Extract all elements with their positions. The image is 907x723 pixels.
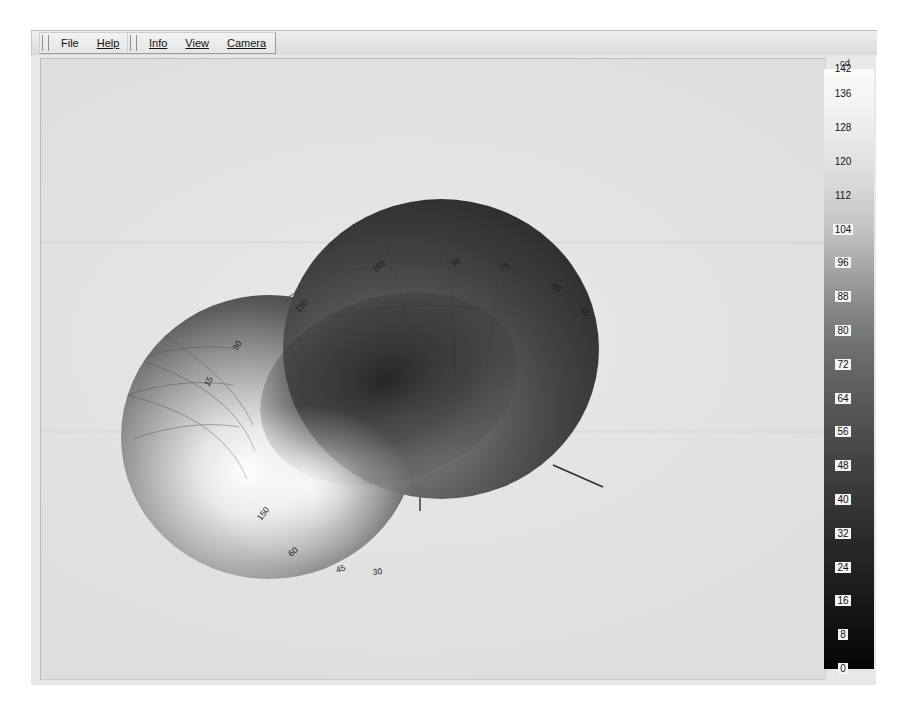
colorbar-tick-0: 0 — [818, 663, 868, 674]
colorbar-tick-value: 64 — [835, 393, 850, 404]
menu-item-camera-label: Camera — [227, 37, 266, 49]
colorbar-tick-56: 56 — [818, 426, 868, 437]
colorbar-tick-128: 128 — [818, 122, 868, 133]
colorbar-tick-96: 96 — [818, 257, 868, 268]
colorbar-tick-value: 16 — [835, 595, 850, 606]
menu-item-help[interactable]: Help — [88, 35, 129, 52]
colorbar-tick-120: 120 — [818, 156, 868, 167]
colorbar-tick-104: 104 — [818, 224, 868, 235]
view-toolbar: Info View Camera — [127, 32, 276, 54]
file-toolbar: File Help — [39, 32, 129, 54]
menu-strip: File Help Info View Camera — [31, 30, 877, 55]
colorbar-tick-value: 80 — [835, 325, 850, 336]
colorbar-tick-value: 128 — [833, 122, 854, 133]
angle-label-lower-2: 45 — [335, 562, 347, 575]
menu-item-view-label: View — [185, 37, 209, 49]
colorbar-tick-142: 142 — [818, 63, 868, 74]
menu-item-help-label: Help — [97, 37, 120, 49]
colorbar-tick-32: 32 — [818, 528, 868, 539]
colorbar-tick-value: 56 — [835, 426, 850, 437]
colorbar-tick-value: 48 — [835, 460, 850, 471]
colorbar-tick-value: 136 — [833, 88, 854, 99]
colorbar-tick-value: 88 — [835, 291, 850, 302]
colorbar-tick-88: 88 — [818, 291, 868, 302]
colorbar-tick-16: 16 — [818, 595, 868, 606]
colorbar-tick-48: 48 — [818, 460, 868, 471]
colorbar-tick-8: 8 — [818, 629, 868, 640]
colorbar-tick-value: 40 — [835, 494, 850, 505]
colorbar-tick-80: 80 — [818, 325, 868, 336]
colorbar-tick-value: 142 — [833, 63, 854, 74]
menu-item-camera[interactable]: Camera — [218, 35, 275, 52]
menu-item-file[interactable]: File — [52, 35, 88, 52]
colorbar-tick-136: 136 — [818, 88, 868, 99]
colorbar-tick-value: 104 — [833, 224, 854, 235]
colorbar-tick-value: 32 — [835, 528, 850, 539]
application-window: File Help Info View Camera — [31, 30, 876, 685]
colorbar-tick-72: 72 — [818, 359, 868, 370]
colorbar-tick-value: 120 — [833, 156, 854, 167]
colorbar-tick-value: 112 — [833, 190, 853, 201]
colorbar-tick-value: 8 — [838, 629, 848, 640]
colorbar-tick-64: 64 — [818, 393, 868, 404]
colorbar-tick-value: 0 — [838, 663, 848, 674]
axis-stub-right — [553, 465, 603, 487]
photometric-surface-plot[interactable]: Z X — [41, 59, 826, 680]
menu-item-info[interactable]: Info — [140, 35, 176, 52]
toolbar-drag-handle-2[interactable] — [130, 35, 137, 51]
colorbar-tick-40: 40 — [818, 494, 868, 505]
plot-canvas[interactable]: Z X — [40, 58, 826, 680]
toolbar-drag-handle[interactable] — [42, 35, 49, 51]
colorbar-tick-24: 24 — [818, 562, 868, 573]
colorbar-tick-112: 112 — [818, 190, 868, 201]
colorbar-tick-value: 96 — [835, 257, 850, 268]
colorbar-tick-value: 72 — [835, 359, 850, 370]
angle-label-lower-3: 30 — [372, 566, 383, 577]
colorbar-panel: cd 1421361281201121049688807264564840322… — [818, 58, 876, 680]
colorbar-tick-value: 24 — [835, 562, 850, 573]
menu-item-info-label: Info — [149, 37, 167, 49]
surface-highlight — [205, 405, 413, 569]
menu-item-view[interactable]: View — [176, 35, 218, 52]
